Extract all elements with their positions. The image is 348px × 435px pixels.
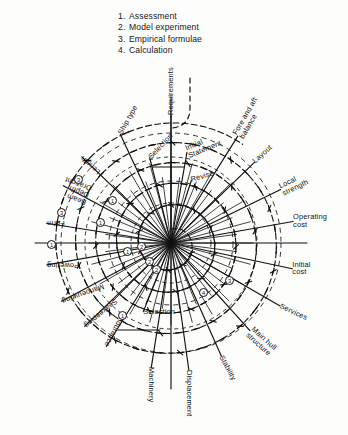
spiral-tick (98, 258, 100, 264)
spiral-tick (130, 150, 136, 152)
spiral-tick (245, 171, 249, 176)
spoke-label-20: Form (47, 219, 65, 227)
spiral-tick (216, 174, 221, 178)
spiral-tick (241, 197, 244, 202)
spiral-tick (121, 295, 126, 299)
spiral-tick (275, 226, 276, 232)
spiral-tick (210, 260, 213, 266)
method-marker-0: 3 (74, 175, 83, 184)
spiral-tick (124, 176, 129, 180)
spiral-tick (265, 289, 268, 295)
spiral-tick (213, 234, 214, 240)
spoke-label-15: Selection (143, 308, 175, 316)
spiral-tick (229, 270, 232, 276)
spiral-tick (135, 280, 140, 284)
legend-label: Assessment (129, 11, 177, 22)
spiral-tick (128, 272, 132, 277)
spiral-tick (253, 263, 255, 269)
spiral-tick (194, 328, 200, 330)
spiral-tick (118, 253, 120, 259)
method-marker-8: 2 (152, 265, 161, 274)
spiral-tick (76, 224, 77, 230)
spiral-tick (122, 210, 125, 215)
spoke-label-14: Machinery (147, 367, 155, 402)
method-marker-10: 4 (199, 288, 208, 297)
hub-ray (113, 185, 171, 243)
spiral-tick (174, 312, 180, 313)
spiral-tick (103, 143, 108, 147)
spiral-tick (176, 332, 182, 333)
spiral-tick (163, 292, 169, 293)
spiral-tick (103, 272, 106, 278)
spiral-tick (199, 347, 205, 349)
spiral-tick (155, 352, 161, 353)
spiral-cross (220, 284, 227, 285)
legend-item: 3. Empirical formulae (118, 34, 202, 45)
spiral-tick (249, 212, 251, 218)
method-marker-11: 3 (225, 276, 234, 285)
spiral-tick (212, 293, 217, 297)
spiral-tick (85, 280, 88, 286)
method-marker-2: 1 (47, 240, 56, 249)
legend-label: Model experiment (129, 22, 199, 33)
method-marker-4: 1 (108, 196, 117, 205)
spiral-cross (198, 278, 205, 279)
legend-number: 1. (118, 11, 129, 22)
method-marker-7: 2 (145, 257, 154, 266)
spoke-label-13: Displacement (185, 370, 193, 417)
spiral-cross (112, 284, 113, 291)
legend-item: 2. Model experiment (118, 22, 202, 33)
spiral-tick (94, 296, 98, 301)
spiral-tick (78, 308, 82, 313)
legend-label: Calculation (129, 45, 173, 56)
spiral-tick (96, 228, 97, 234)
figure-root: 1. Assessment 2. Model experiment 3. Emp… (0, 0, 348, 435)
spiral-cross (113, 161, 120, 162)
legend-item: 4. Calculation (118, 45, 202, 56)
spiral-cross (224, 207, 226, 214)
legend-number: 2. (118, 22, 129, 33)
spoke-label-0: Requirements (167, 67, 175, 115)
spiral-cross (237, 326, 244, 327)
legend: 1. Assessment 2. Model experiment 3. Emp… (118, 11, 202, 56)
spiral-cross (194, 207, 195, 214)
legend-label: Empirical formulae (129, 34, 202, 45)
method-marker-1: 3 (57, 208, 66, 217)
spiral-tick (204, 191, 209, 195)
spiral-cross (230, 157, 231, 164)
spoke-label-8: Operatingcost (293, 214, 327, 229)
method-marker-3: 1 (96, 218, 105, 227)
method-marker-6: 2 (137, 242, 146, 251)
legend-number: 4. (118, 45, 129, 56)
spoke-label-9: Initialcost (292, 261, 310, 276)
spiral-tick (237, 295, 241, 300)
method-marker-9: 1 (118, 311, 127, 320)
radial-spoke-1 (120, 134, 171, 243)
spiral-tick (153, 164, 159, 165)
legend-number: 3. (118, 34, 129, 45)
method-marker-5: 1 (123, 247, 132, 256)
spiral-tick (258, 187, 261, 192)
spoke-label-19: Powering (47, 261, 79, 269)
spiral-tick (234, 257, 236, 263)
spiral-tick (136, 194, 141, 198)
legend-item: 1. Assessment (118, 11, 202, 22)
